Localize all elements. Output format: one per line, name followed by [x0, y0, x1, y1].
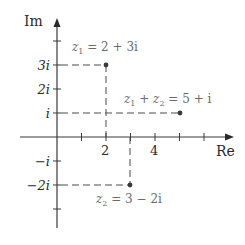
x-axis-label: Re — [216, 143, 235, 159]
z1-label: z1 = 2 + 3i — [71, 40, 138, 56]
x-tick-label-4: 4 — [150, 143, 158, 158]
guide-lines — [61, 65, 180, 185]
complex-plane-diagram: Im Re 2 4 3i 2i i −i −2i z1 = 2 + 3i z1 … — [0, 0, 245, 245]
y-tick-label-neg-2i: −2i — [27, 178, 50, 193]
real-axis-arrow-icon — [225, 134, 234, 141]
y-axis-label: Im — [24, 13, 43, 29]
y-tick-label-i: i — [46, 106, 50, 121]
point-z1 — [104, 63, 109, 68]
x-tick-label-2: 2 — [101, 143, 109, 158]
point-sum — [178, 111, 183, 116]
sum-label: z1 + z2 = 5 + i — [123, 92, 212, 108]
imaginary-axis-arrow-icon — [54, 18, 61, 27]
y-tick-label-2i: 2i — [37, 82, 50, 97]
z2-label: z2 = 3 − 2i — [95, 192, 162, 208]
y-tick-label-3i: 3i — [38, 58, 50, 73]
point-z2 — [128, 183, 133, 188]
y-tick-label-neg-i: −i — [35, 154, 50, 169]
